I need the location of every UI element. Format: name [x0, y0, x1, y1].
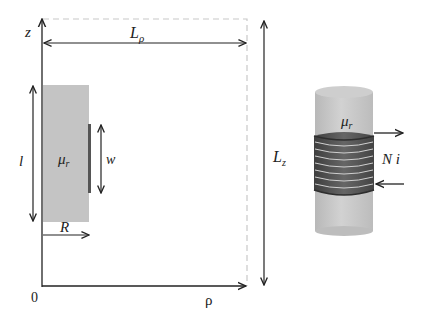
coil-width-label: w [106, 152, 116, 167]
coil-bar [88, 124, 91, 193]
right-panel: N i μr [314, 86, 404, 236]
left-panel: z ρ 0 Lρ Lz l w R μr [19, 19, 286, 308]
diagram-canvas: z ρ 0 Lρ Lz l w R μr [0, 0, 424, 325]
core-length-label: l [19, 153, 23, 169]
radius-label: R [59, 219, 69, 235]
coil-winding [314, 132, 374, 195]
rho-axis-label: ρ [205, 292, 213, 308]
z-axis-label: z [24, 24, 31, 40]
l-z-label: Lz [272, 148, 286, 168]
core-rectangle [43, 85, 89, 222]
origin-label: 0 [31, 290, 38, 305]
l-rho-label: Lρ [129, 24, 144, 44]
ampere-turns-label: N i [381, 151, 400, 167]
